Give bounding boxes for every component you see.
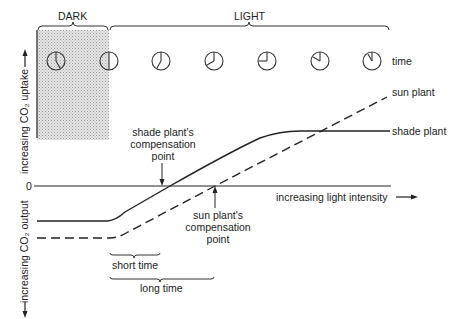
clock-icon bbox=[258, 52, 276, 70]
shade-plant-curve bbox=[37, 131, 390, 221]
short-time-label: short time bbox=[112, 259, 158, 271]
y-down-label: increasing CO₂ output bbox=[18, 203, 32, 303]
diagram-canvas bbox=[0, 0, 453, 319]
y-up-label: increasing CO₂ uptake bbox=[18, 74, 32, 174]
dark-brace bbox=[38, 22, 108, 30]
long-time-label: long time bbox=[140, 282, 183, 294]
zero-label: 0 bbox=[26, 180, 32, 192]
clock-icon bbox=[205, 52, 223, 70]
clock-icon bbox=[311, 52, 329, 70]
shade-compensation-label: shade plant's compensation point bbox=[118, 126, 208, 162]
short-time-brace bbox=[110, 253, 160, 258]
clock-icon bbox=[363, 52, 381, 70]
shade-plant-label: shade plant bbox=[392, 125, 446, 137]
light-brace bbox=[110, 22, 389, 30]
light-label: LIGHT bbox=[234, 10, 265, 22]
sun-compensation-label: sun plant's compensation point bbox=[176, 209, 260, 245]
time-label: time bbox=[392, 55, 412, 67]
x-axis-label: increasing light intensity bbox=[276, 191, 387, 203]
clock-icon bbox=[152, 52, 170, 70]
sun-plant-label: sun plant bbox=[392, 86, 435, 98]
dark-label: DARK bbox=[58, 10, 87, 22]
